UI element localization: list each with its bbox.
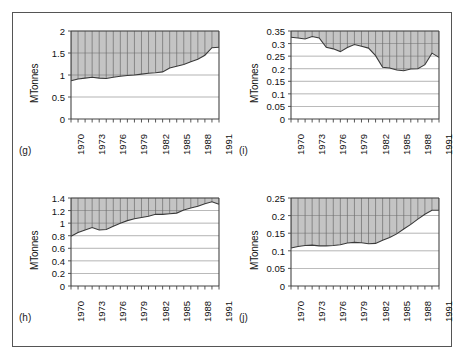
plot-area (233, 13, 453, 180)
area-fill (291, 198, 439, 248)
chart-panel-g: MTonnes(g)00.511.52197019731976197919821… (13, 13, 233, 180)
figure-frame: MTonnes(g)00.511.52197019731976197919821… (12, 12, 452, 347)
plot-area (13, 13, 233, 180)
chart-panel-j: MTonnes(j)00.050.10.150.20.2519701973197… (233, 180, 453, 347)
plot-area (13, 180, 233, 347)
plot-area (233, 180, 453, 347)
chart-panel-i: MTonnes(i)00.050.10.150.20.250.30.351970… (233, 13, 453, 180)
chart-panel-h: MTonnes(h)00.20.40.60.811.21.41970197319… (13, 180, 233, 347)
